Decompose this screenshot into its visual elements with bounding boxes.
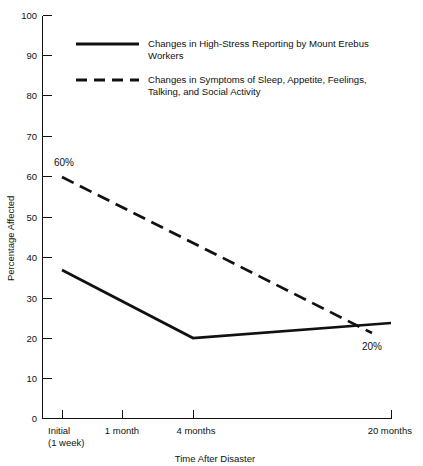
x-axis-ticks xyxy=(63,410,392,419)
y-tick-label: 70 xyxy=(26,131,37,142)
legend-label-line1: Changes in Symptoms of Sleep, Appetite, … xyxy=(148,74,367,85)
y-tick-label: 60 xyxy=(26,171,37,182)
y-tick-label: 10 xyxy=(26,373,37,384)
y-tick-label: 40 xyxy=(26,252,37,263)
x-tick-label: 4 months xyxy=(176,425,215,436)
x-tick-label: 1 month xyxy=(105,425,139,436)
annotation-start-value: 60% xyxy=(54,157,74,168)
x-tick-label: 20 months xyxy=(368,425,413,436)
y-tick-label: 90 xyxy=(26,50,37,61)
x-tick-label-sub: (1 week) xyxy=(48,437,84,448)
annotation-end-value: 20% xyxy=(362,341,382,352)
y-tick-label: 50 xyxy=(26,212,37,223)
y-tick-label: 0 xyxy=(32,413,37,424)
x-tick-label: Initial xyxy=(48,425,70,436)
y-axis-ticks xyxy=(43,16,52,419)
legend-label-line1: Changes in High-Stress Reporting by Moun… xyxy=(148,38,369,49)
y-tick-label: 100 xyxy=(21,10,37,21)
series-line-high-stress xyxy=(62,270,391,338)
x-axis-title: Time After Disaster xyxy=(175,453,255,464)
y-axis-title: Percentage Affected xyxy=(5,196,16,281)
y-tick-label: 30 xyxy=(26,293,37,304)
chart-svg: 100 90 80 70 60 50 40 30 20 10 0 Initial… xyxy=(0,0,423,466)
y-tick-label: 20 xyxy=(26,333,37,344)
chart-legend: Changes in High-Stress Reporting by Moun… xyxy=(76,38,369,97)
series-line-symptoms xyxy=(62,177,372,333)
y-tick-label: 80 xyxy=(26,90,37,101)
legend-label-line2: Workers xyxy=(148,50,184,61)
y-axis-tick-labels: 100 90 80 70 60 50 40 30 20 10 0 xyxy=(21,10,37,424)
x-axis-tick-labels: Initial (1 week) 1 month 4 months 20 mon… xyxy=(48,425,412,448)
legend-label-line2: Talking, and Social Activity xyxy=(148,86,261,97)
chart-container: 100 90 80 70 60 50 40 30 20 10 0 Initial… xyxy=(0,0,423,466)
